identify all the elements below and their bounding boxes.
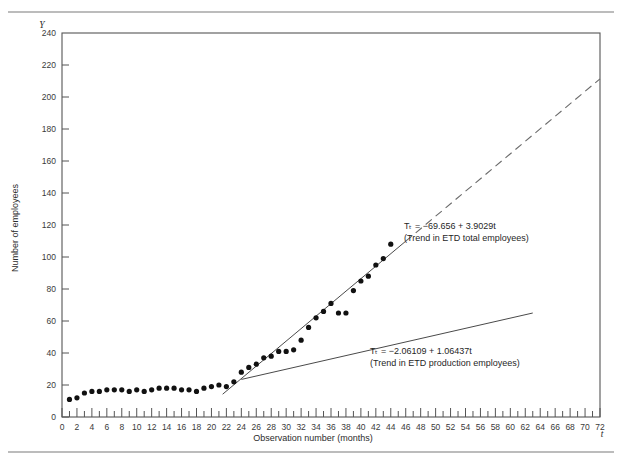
annotation-production-equation: Tₜ = −2.06109 + 1.06437t <box>370 346 472 356</box>
x-tick-label: 48 <box>416 422 426 432</box>
annotation-total-caption: (Trend in ETD total employees) <box>404 233 529 243</box>
data-point <box>388 242 393 247</box>
data-point <box>328 301 333 306</box>
x-tick-label: 18 <box>192 422 202 432</box>
data-point <box>276 349 281 354</box>
x-tick-label: 72 <box>595 422 605 432</box>
x-tick-label: 68 <box>565 422 575 432</box>
data-point <box>291 347 296 352</box>
x-tick-label: 42 <box>371 422 381 432</box>
data-point <box>97 389 102 394</box>
figure-container: Y t Number of employees Observation numb… <box>0 0 622 464</box>
x-tick-label: 52 <box>446 422 456 432</box>
x-tick-label: 60 <box>506 422 516 432</box>
x-tick-label: 20 <box>207 422 217 432</box>
x-tick-label: 40 <box>356 422 366 432</box>
data-point <box>194 389 199 394</box>
data-point <box>67 397 72 402</box>
data-point <box>254 362 259 367</box>
x-tick-label: 34 <box>311 422 321 432</box>
data-point <box>171 386 176 391</box>
data-point <box>239 370 244 375</box>
data-point <box>351 288 356 293</box>
x-tick-label: 2 <box>75 422 80 432</box>
annotation-total-equation: Tₜ = −69.656 + 3.9029t <box>404 221 496 231</box>
x-tick-label: 56 <box>476 422 486 432</box>
x-axis-title: Observation number (months) <box>253 433 373 443</box>
annotation-production: Tₜ = −2.06109 + 1.06437t (Trend in ETD p… <box>370 346 520 368</box>
x-tick-label: 12 <box>147 422 157 432</box>
data-point <box>74 395 79 400</box>
data-point <box>134 387 139 392</box>
data-point <box>269 354 274 359</box>
data-point <box>209 384 214 389</box>
data-point <box>142 389 147 394</box>
y-tick-label: 180 <box>42 124 56 134</box>
data-point <box>216 382 221 387</box>
x-tick-label: 50 <box>431 422 441 432</box>
x-tick-label: 44 <box>386 422 396 432</box>
y-tick-label: 0 <box>51 412 56 422</box>
x-tick-label: 10 <box>132 422 142 432</box>
annotation-production-caption: (Trend in ETD production employees) <box>370 358 520 368</box>
data-point <box>104 387 109 392</box>
y-tick-label: 240 <box>42 28 56 38</box>
x-tick-label: 66 <box>550 422 560 432</box>
x-tick-label: 64 <box>535 422 545 432</box>
x-tick-label: 22 <box>222 422 232 432</box>
y-axis-ticks: 020406080100120140160180200220240 <box>42 28 69 422</box>
data-point <box>224 384 229 389</box>
x-tick-label: 16 <box>177 422 187 432</box>
y-tick-label: 220 <box>42 60 56 70</box>
x-tick-label: 70 <box>580 422 590 432</box>
data-point <box>366 274 371 279</box>
x-tick-label: 38 <box>341 422 351 432</box>
data-point <box>343 310 348 315</box>
x-tick-label: 24 <box>237 422 247 432</box>
x-tick-label: 0 <box>60 422 65 432</box>
data-point <box>373 262 378 267</box>
x-tick-label: 30 <box>281 422 291 432</box>
y-tick-label: 20 <box>47 380 57 390</box>
data-point <box>313 315 318 320</box>
data-point <box>321 309 326 314</box>
x-tick-label: 54 <box>461 422 471 432</box>
data-point <box>157 386 162 391</box>
trend-line <box>406 79 600 241</box>
y-axis-title: Number of employees <box>10 183 20 272</box>
x-tick-label: 14 <box>162 422 172 432</box>
y-tick-label: 140 <box>42 188 56 198</box>
data-points-group <box>67 242 394 402</box>
data-point <box>127 389 132 394</box>
data-point <box>149 387 154 392</box>
x-tick-label: 4 <box>90 422 95 432</box>
data-point <box>164 386 169 391</box>
x-tick-label: 26 <box>252 422 262 432</box>
data-point <box>284 349 289 354</box>
y-tick-label: 100 <box>42 252 56 262</box>
data-point <box>179 387 184 392</box>
data-point <box>119 387 124 392</box>
data-point <box>112 387 117 392</box>
data-point <box>89 389 94 394</box>
y-tick-label: 200 <box>42 92 56 102</box>
x-tick-label: 28 <box>266 422 276 432</box>
data-point <box>306 325 311 330</box>
annotation-total: Tₜ = −69.656 + 3.9029t (Trend in ETD tot… <box>404 221 529 243</box>
data-point <box>381 256 386 261</box>
data-point <box>82 390 87 395</box>
y-tick-label: 160 <box>42 156 56 166</box>
data-point <box>336 310 341 315</box>
data-point <box>261 355 266 360</box>
y-tick-label: 80 <box>47 284 57 294</box>
data-point <box>246 365 251 370</box>
x-tick-label: 58 <box>491 422 501 432</box>
x-tick-label: 6 <box>104 422 109 432</box>
x-axis-ticks: 0246810121416182022242628303234363840424… <box>60 408 605 432</box>
x-tick-label: 8 <box>119 422 124 432</box>
x-tick-label: 32 <box>296 422 306 432</box>
y-tick-label: 120 <box>42 220 56 230</box>
x-tick-label: 36 <box>326 422 336 432</box>
x-tick-label: 62 <box>521 422 531 432</box>
data-point <box>231 379 236 384</box>
